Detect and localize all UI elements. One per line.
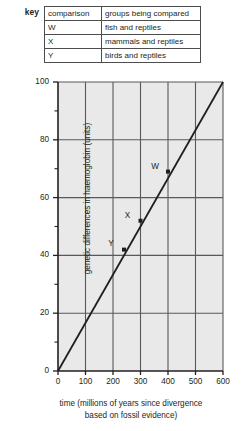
y-tick-label: 60: [19, 193, 49, 202]
x-tick-label: 100: [71, 377, 101, 386]
x-axis-title-line1: time (millions of years since divergence: [60, 399, 203, 408]
annotation-label-y: Y: [108, 238, 113, 247]
key-legend-block: key comparison groups being compared W f…: [0, 6, 242, 63]
header-groups-compared: groups being compared: [102, 7, 201, 21]
table-row: Y birds and reptiles: [45, 49, 201, 63]
x-axis-title-line2: based on fossil evidence): [85, 411, 177, 420]
row-comparison-x: X: [45, 35, 102, 49]
x-tick-label: 400: [153, 377, 183, 386]
x-axis-title: time (millions of years since divergence…: [6, 398, 242, 421]
annotation-label-w: W: [151, 161, 159, 170]
x-tick-label: 500: [181, 377, 211, 386]
key-table: comparison groups being compared W fish …: [44, 6, 201, 63]
plot-wrapper: 0204060801000100200300400500600 WXY gene…: [58, 82, 223, 371]
table-row: W fish and reptiles: [45, 21, 201, 35]
y-tick-label: 40: [19, 250, 49, 259]
table-row: X mammals and reptiles: [45, 35, 201, 49]
table-header-row: comparison groups being compared: [45, 7, 201, 21]
y-tick-label: 0: [19, 366, 49, 375]
row-groups-x: mammals and reptiles: [102, 35, 201, 49]
x-tick-label: 600: [208, 377, 238, 386]
y-tick-label: 80: [19, 135, 49, 144]
row-groups-y: birds and reptiles: [102, 49, 201, 63]
row-comparison-w: W: [45, 21, 102, 35]
y-tick-label: 20: [19, 308, 49, 317]
annotation-label-x: X: [125, 210, 130, 219]
x-tick-label: 0: [43, 377, 73, 386]
y-tick-label: 100: [19, 77, 49, 86]
x-tick-label: 300: [126, 377, 156, 386]
header-comparison: comparison: [45, 7, 102, 21]
key-label: key: [0, 6, 44, 19]
row-groups-w: fish and reptiles: [102, 21, 201, 35]
row-comparison-y: Y: [45, 49, 102, 63]
y-axis-title: genetic differences in haemoglobin (unit…: [83, 74, 92, 324]
x-tick-label: 200: [98, 377, 128, 386]
